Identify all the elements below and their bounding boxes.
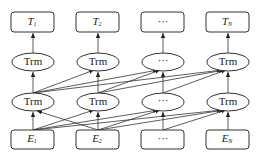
svg-text:···: ··· (158, 132, 169, 144)
svg-text:···: ··· (158, 54, 169, 66)
input-box-ellipsis: ··· (141, 130, 184, 149)
output-box-1: T1 (11, 12, 54, 32)
svg-text:Trm: Trm (24, 95, 43, 107)
svg-text:Trm: Trm (89, 55, 108, 67)
output-box-2: T2 (76, 12, 119, 32)
output-box-ellipsis: ··· (141, 12, 184, 32)
transformer-diagram: T1 T2 ··· TN Trm Trm ··· Trm Trm Trm ··· (0, 0, 260, 162)
svg-text:···: ··· (158, 15, 169, 27)
output-box-n: TN (206, 12, 249, 32)
input-box-n: EN (206, 130, 249, 149)
input-box-2: E2 (76, 130, 119, 149)
output-row: T1 T2 ··· TN (11, 12, 249, 32)
input-connections (33, 110, 228, 130)
output-connections (33, 33, 228, 53)
bottom-transformer-layer: Trm Trm ··· Trm (12, 93, 249, 111)
svg-text:···: ··· (158, 94, 169, 106)
svg-text:Trm: Trm (219, 55, 238, 67)
top-transformer-layer: Trm Trm ··· Trm (12, 53, 249, 71)
svg-text:Trm: Trm (24, 55, 43, 67)
svg-text:Trm: Trm (219, 95, 238, 107)
input-row: E1 E2 ··· EN (11, 130, 249, 149)
layer-connections (33, 70, 228, 93)
input-box-1: E1 (11, 130, 54, 149)
svg-text:Trm: Trm (89, 95, 108, 107)
